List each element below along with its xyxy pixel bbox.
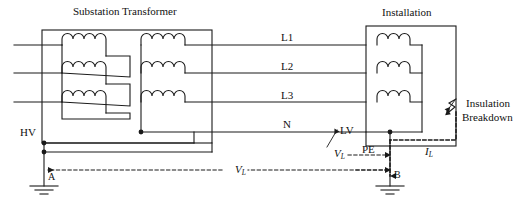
conductor-label-l3: L3 <box>281 90 293 101</box>
installation-outline <box>366 26 456 146</box>
hv-label: HV <box>20 127 36 138</box>
secondary-winding-2 <box>141 62 185 73</box>
quantity-loop-voltage: VL <box>235 164 246 176</box>
installation-load-1 <box>377 34 422 45</box>
quantity-subscript: L <box>341 152 345 161</box>
installation-title: Installation <box>382 7 432 18</box>
conductor-label-n: N <box>283 119 291 130</box>
insulation-breakdown-arc <box>449 99 456 112</box>
installation-load-return-bus <box>366 45 422 132</box>
point-b-label: B <box>394 170 401 180</box>
secondary-winding-1 <box>141 34 185 45</box>
quantity-subscript: L <box>429 150 433 159</box>
junction-dot-star-point <box>139 130 144 135</box>
secondary-winding-3 <box>141 91 185 103</box>
lv-label: LV <box>340 125 354 136</box>
hv-earth-bus <box>44 132 212 186</box>
junction-dot-pe <box>388 130 393 135</box>
quantity-fault-current: IL <box>425 146 433 158</box>
point-a-label: A <box>48 172 55 182</box>
delta-interconnection <box>62 45 130 119</box>
quantity-symbol: V <box>235 163 242 175</box>
earth-electrode-b-symbol <box>376 186 404 194</box>
fault-current-path <box>390 112 456 176</box>
junction-dot-hv-2 <box>42 150 47 155</box>
transformer-tank-outline <box>42 30 212 143</box>
quantity-subscript: L <box>242 168 246 177</box>
installation-load-2 <box>377 62 422 73</box>
primary-winding-1 <box>62 34 106 56</box>
insulation-breakdown-label-line2: Breakdown <box>462 112 513 123</box>
junction-dot-hv-1 <box>42 141 47 146</box>
conductor-label-l1: L1 <box>281 32 293 43</box>
electrical-schematic-diagram: Substation Transformer Installation L1 L… <box>0 0 517 213</box>
hv-incoming-conductors <box>14 45 62 102</box>
quantity-touch-voltage-lv: VL <box>334 148 345 160</box>
earth-electrode-a-symbol <box>30 186 58 194</box>
primary-winding-3 <box>62 91 106 114</box>
pe-label: PE <box>362 144 375 155</box>
quantity-symbol: V <box>334 147 341 159</box>
transformer-title: Substation Transformer <box>73 6 177 17</box>
conductor-label-l2: L2 <box>281 61 293 72</box>
insulation-breakdown-label-line1: Insulation <box>466 98 510 109</box>
schematic-canvas <box>0 0 517 213</box>
installation-load-3 <box>377 91 422 103</box>
primary-winding-2 <box>62 62 106 84</box>
